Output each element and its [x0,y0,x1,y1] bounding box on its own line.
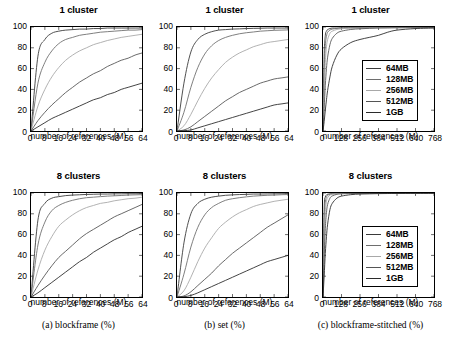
figure-row-1-cluster: 1 cluster 100806040200 0816243240485664 … [0,4,450,164]
figure-panel-grid: 1 cluster 100806040200 0816243240485664 … [0,0,450,342]
chart-panel-b-8clusters: 8 clusters 100806040200 0816243240485664… [152,170,297,330]
series-line [177,255,288,297]
x-axis-title: number of references (M) [298,131,443,141]
panel-caption: (a) blockframe (%) [6,320,151,330]
y-axis-ticks: 100806040200 [298,192,320,298]
chart-panel-c-8clusters: 8 clusters 100806040200 0128256384512640… [298,170,443,330]
plot-area: 100806040200 0816243240485664 [152,17,297,141]
y-tick-label: 40 [151,251,173,260]
series-line [177,195,288,297]
plot-area: 100806040200 0128256384512640768 64MB128… [298,183,443,307]
y-tick-label: 20 [151,106,173,115]
legend-label: 128MB [386,241,413,250]
panel-title: 1 cluster [152,4,297,15]
panel-title: 8 clusters [152,170,297,181]
series-line [31,204,142,297]
y-tick-label: 60 [151,64,173,73]
series-line [177,103,288,131]
x-axis-title: number of references (M) [6,297,151,307]
x-axis-title: number of references (M) [152,297,297,307]
series-line [177,199,288,297]
y-tick-label: 20 [5,272,27,281]
legend-label: 256MB [386,252,413,261]
legend-item: 256MB [366,251,413,262]
y-tick-label: 80 [297,43,319,52]
series-line [31,226,142,297]
series-line [177,194,288,297]
legend-item: 1GB [366,273,413,284]
legend-label: 512MB [386,97,413,106]
legend-label: 256MB [386,86,413,95]
panel-caption: (c) blockframe-stitched (%) [298,320,443,330]
y-tick-label: 40 [297,85,319,94]
legend-label: 512MB [386,263,413,272]
legend-color-swatch [366,267,381,268]
legend-item: 64MB [366,63,413,74]
y-tick-label: 60 [5,64,27,73]
legend-label: 64MB [386,230,409,239]
plot-frame [176,192,289,298]
legend-color-swatch [366,112,381,113]
plot-area: 100806040200 0816243240485664 [152,183,297,307]
series-line [31,30,142,131]
y-axis-ticks: 100806040200 [6,26,28,132]
legend-color-swatch [366,278,381,279]
y-tick-label: 80 [151,209,173,218]
y-axis-ticks: 100806040200 [6,192,28,298]
legend-label: 1GB [386,274,403,283]
series-line [31,34,142,131]
y-tick-label: 100 [151,188,173,197]
legend-item: 1GB [366,107,413,118]
plot-frame [176,26,289,132]
legend-label: 1GB [386,108,403,117]
legend-color-swatch [366,234,381,235]
y-tick-label: 100 [151,22,173,31]
legend-item: 64MB [366,229,413,240]
y-tick-label: 100 [5,22,27,31]
legend: 64MB128MB256MB512MB1GB [362,226,418,287]
series-line [31,83,142,131]
figure-row-8-clusters: 8 clusters 100806040200 0816243240485664… [0,170,450,330]
legend-label: 64MB [386,64,409,73]
series-line [31,194,142,297]
panel-title: 1 cluster [298,4,443,15]
legend-color-swatch [366,79,381,80]
legend-color-swatch [366,256,381,257]
legend-color-swatch [366,245,381,246]
y-tick-label: 40 [5,85,27,94]
chart-panel-b-1cluster: 1 cluster 100806040200 0816243240485664 … [152,4,297,164]
y-tick-label: 60 [297,230,319,239]
legend-color-swatch [366,101,381,102]
y-tick-label: 100 [297,188,319,197]
series-line [31,53,142,131]
x-axis-title: number of references (M) [298,297,443,307]
y-axis-ticks: 100806040200 [152,192,174,298]
legend-color-swatch [366,68,381,69]
plot-area: 100806040200 0128256384512640768 64MB128… [298,17,443,141]
y-tick-label: 60 [5,230,27,239]
legend-item: 128MB [366,240,413,251]
y-tick-label: 20 [297,272,319,281]
chart-panel-a-8clusters: 8 clusters 100806040200 0816243240485664… [6,170,151,330]
y-tick-label: 20 [151,272,173,281]
y-tick-label: 100 [297,22,319,31]
panel-caption: (b) set (%) [152,320,297,330]
panel-title: 8 clusters [298,170,443,181]
series-line [31,195,142,297]
chart-panel-c-1cluster: 1 cluster 100806040200 01282563845126407… [298,4,443,164]
plot-area: 100806040200 0816243240485664 [6,17,151,141]
series-line [31,28,142,131]
y-tick-label: 80 [297,209,319,218]
y-tick-label: 20 [5,106,27,115]
legend-item: 256MB [366,85,413,96]
legend-item: 512MB [366,96,413,107]
legend-label: 128MB [386,75,413,84]
plot-area: 100806040200 0816243240485664 [6,183,151,307]
plot-frame [30,192,143,298]
y-tick-label: 40 [297,251,319,260]
legend: 64MB128MB256MB512MB1GB [362,60,418,121]
y-tick-label: 40 [5,251,27,260]
series-line [177,77,288,131]
x-axis-title: number of references (M) [152,131,297,141]
y-tick-label: 100 [5,188,27,197]
